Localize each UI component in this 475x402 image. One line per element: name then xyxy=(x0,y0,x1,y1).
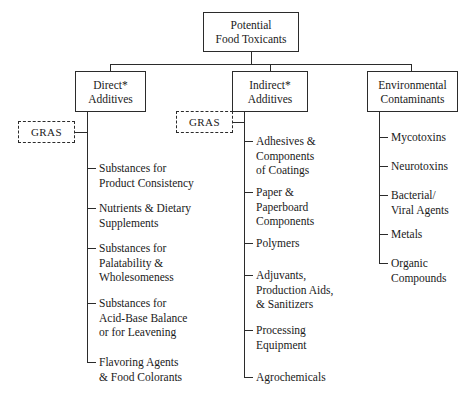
direct-leaf-tick-2 xyxy=(87,208,96,209)
food-toxicants-tree-diagram: Potential Food Toxicants Direct* Additiv… xyxy=(0,0,475,402)
environmental-contaminants-trunk xyxy=(379,112,380,263)
environmental-leaf-label-1: Mycotoxins xyxy=(391,130,475,145)
gras-direct-tick xyxy=(75,132,87,133)
direct-additives-label-line1: Direct* xyxy=(93,78,127,92)
root-stem xyxy=(251,52,252,64)
node-indirect-additives: Indirect* Additives xyxy=(232,71,308,112)
direct-leaf-tick-3 xyxy=(87,248,96,249)
direct-leaf-label-3: Substances for Palatability & Wholesomen… xyxy=(99,241,217,285)
indirect-leaf-tick-1 xyxy=(244,141,253,142)
environmental-leaf-label-5: Organic Compounds xyxy=(391,256,475,285)
gras-badge-direct: GRAS xyxy=(18,121,75,143)
environmental-leaf-label-2: Neurotoxins xyxy=(391,159,475,174)
gras-badge-indirect: GRAS xyxy=(176,111,233,133)
indirect-leaf-tick-2 xyxy=(244,192,253,193)
root-label-line1: Potential xyxy=(231,18,272,32)
bus-drop-direct xyxy=(110,64,111,71)
environmental-contaminants-label-line2: Contaminants xyxy=(381,92,445,106)
direct-leaf-tick-4 xyxy=(87,303,96,304)
direct-leaf-label-4: Substances for Acid-Base Balance or for … xyxy=(99,296,217,340)
indirect-leaf-tick-4 xyxy=(244,275,253,276)
direct-leaf-label-1: Substances for Product Consistency xyxy=(99,161,217,190)
indirect-leaf-tick-5 xyxy=(244,330,253,331)
environmental-contaminants-label-line1: Environmental xyxy=(378,78,446,92)
branch-bus xyxy=(110,64,411,65)
node-direct-additives: Direct* Additives xyxy=(75,71,146,112)
gras-badge-direct-label: GRAS xyxy=(31,126,62,138)
direct-leaf-tick-5 xyxy=(87,362,96,363)
direct-leaf-tick-1 xyxy=(87,168,96,169)
indirect-leaf-tick-6 xyxy=(244,377,253,378)
indirect-leaf-label-1: Adhesives & Components of Coatings xyxy=(256,134,361,178)
environmental-leaf-tick-2 xyxy=(379,166,388,167)
indirect-additives-label-line1: Indirect* xyxy=(249,78,291,92)
node-potential-food-toxicants: Potential Food Toxicants xyxy=(203,12,299,52)
environmental-leaf-tick-3 xyxy=(379,195,388,196)
direct-leaf-label-2: Nutrients & Dietary Supplements xyxy=(99,201,217,230)
environmental-leaf-label-4: Metals xyxy=(391,227,475,242)
indirect-leaf-label-3: Polymers xyxy=(256,236,361,251)
root-label-line2: Food Toxicants xyxy=(216,32,287,46)
direct-additives-label-line2: Additives xyxy=(88,92,133,106)
environmental-leaf-label-3: Bacterial/ Viral Agents xyxy=(391,188,475,217)
indirect-leaf-label-2: Paper & Paperboard Components xyxy=(256,185,361,229)
indirect-leaf-label-4: Adjuvants, Production Aids, & Sanitizers xyxy=(256,268,361,312)
gras-indirect-tick xyxy=(233,122,244,123)
node-environmental-contaminants: Environmental Contaminants xyxy=(367,71,458,112)
environmental-leaf-tick-1 xyxy=(379,137,388,138)
indirect-leaf-tick-3 xyxy=(244,243,253,244)
indirect-additives-trunk xyxy=(244,112,245,377)
direct-leaf-label-5: Flavoring Agents & Food Colorants xyxy=(99,355,217,384)
bus-drop-indirect xyxy=(270,64,271,71)
indirect-leaf-label-6: Agrochemicals xyxy=(256,370,361,385)
bus-drop-environmental xyxy=(411,64,412,71)
indirect-additives-label-line2: Additives xyxy=(248,92,293,106)
environmental-leaf-tick-5 xyxy=(379,263,388,264)
gras-badge-indirect-label: GRAS xyxy=(189,116,220,128)
direct-additives-trunk xyxy=(87,112,88,362)
environmental-leaf-tick-4 xyxy=(379,234,388,235)
indirect-leaf-label-5: Processing Equipment xyxy=(256,323,361,352)
